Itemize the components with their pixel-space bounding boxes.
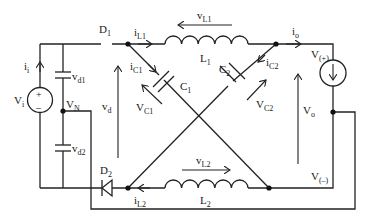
capacitor-vd1-icon [55,72,71,78]
inductor-l2-icon [165,180,248,188]
vc2-label: VC2 [256,98,273,113]
vd-label: vd [102,100,112,115]
source-label: Vi [14,94,25,109]
circuit-diagram: + – Vi ii vd1 VN vd2 D1 D2 vd iL1 L1 vL1… [0,0,369,220]
il2-label: iL2 [134,194,146,209]
il1-label: iL1 [134,26,146,41]
svg-text:+: + [36,89,42,100]
current-source-icon [320,60,346,86]
capacitor-vd2-icon [55,145,71,151]
io-label: io [292,25,299,40]
vl2-label: vL2 [196,154,210,169]
vl1-label: vL1 [197,9,211,24]
vd1-label: vd1 [72,70,86,85]
voltage-source-icon: + – [28,88,53,114]
ic1-arrow-icon [148,64,156,72]
c1-label: C1 [180,80,191,95]
vc1-arrow-icon [142,85,162,104]
l2-label: L2 [200,194,211,209]
vo-label: Vo [303,104,315,119]
ic2-label: iC2 [266,56,278,71]
vd2-label: vd2 [72,142,86,157]
vplus-label: V(+) [311,48,329,63]
l1-label: L1 [200,52,211,67]
diode-d2-icon [102,180,112,196]
c2-label: C2 [219,63,230,78]
ii-label: ii [24,60,30,75]
capacitor-c1-icon [153,71,174,92]
svg-text:–: – [35,102,42,113]
d2-label: D2 [100,164,112,179]
ic1-label: iC1 [130,60,142,75]
vc2-arrow-icon [247,80,266,100]
vminus-label: V(–) [311,170,329,185]
inductor-l1-icon [165,36,248,44]
d1-label: D1 [99,23,111,38]
vc1-label: VC1 [136,101,153,116]
